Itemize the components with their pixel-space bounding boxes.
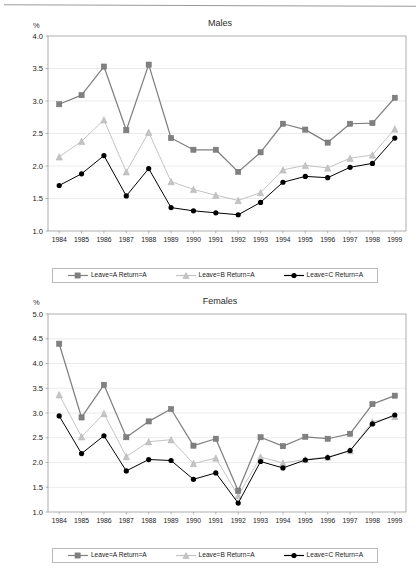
data-point-square: [168, 406, 173, 411]
figure-page: Males % 1.01.52.02.53.03.54.019841985198…: [0, 0, 420, 579]
data-point-square: [146, 419, 151, 424]
y-tick-label: 5.0: [32, 310, 43, 319]
x-tick-label: 1994: [275, 517, 290, 524]
y-axis-tick-labels: 1.01.52.02.53.03.54.04.55.0: [32, 310, 48, 517]
line-chart-svg-males: 1.01.52.02.53.03.54.01984198519861987198…: [0, 18, 420, 268]
data-point-square: [370, 401, 375, 406]
plot-area-females: 1.01.52.02.53.03.54.04.55.01984198519861…: [0, 296, 420, 548]
legend-label: Leave=A Return=A: [91, 552, 147, 559]
legend-item[interactable]: Leave=C Return=A: [283, 271, 363, 280]
legend-label: Leave=B Return=A: [199, 272, 255, 279]
series-circle: [57, 135, 398, 217]
x-tick-label: 1986: [96, 236, 111, 243]
legend-label: Leave=A Return=A: [91, 272, 147, 279]
series-line: [59, 415, 395, 503]
legend-females: Leave=A Return=ALeave=B Return=ALeave=C …: [52, 548, 378, 563]
series-line: [59, 138, 395, 215]
y-tick-label: 3.0: [32, 97, 43, 106]
data-point-square: [392, 95, 397, 100]
data-point-square: [347, 431, 352, 436]
data-point-circle: [57, 183, 62, 188]
x-tick-label: 1987: [119, 517, 134, 524]
data-point-circle: [258, 459, 263, 464]
y-tick-label: 2.5: [32, 129, 43, 138]
y-tick-label: 2.0: [32, 162, 43, 171]
data-point-square: [303, 127, 308, 132]
x-tick-label: 1989: [164, 236, 179, 243]
data-point-triangle: [101, 410, 107, 416]
y-tick-label: 3.5: [32, 64, 43, 73]
series-circle: [57, 412, 398, 505]
data-point-circle: [347, 448, 352, 453]
x-tick-label: 1996: [320, 517, 335, 524]
data-point-square: [101, 64, 106, 69]
data-point-square: [124, 128, 129, 133]
y-tick-label: 2.0: [32, 458, 43, 467]
data-point-circle: [124, 468, 129, 473]
data-point-circle: [392, 412, 397, 417]
x-tick-label: 1989: [164, 517, 179, 524]
data-point-circle: [280, 180, 285, 185]
data-point-triangle: [145, 129, 151, 135]
data-point-circle: [57, 413, 62, 418]
data-point-square: [57, 341, 62, 346]
data-point-square: [191, 443, 196, 448]
x-tick-label: 1999: [387, 236, 402, 243]
data-point-square: [57, 102, 62, 107]
data-point-circle: [392, 135, 397, 140]
y-tick-label: 4.0: [32, 32, 43, 41]
legend-item[interactable]: Leave=A Return=A: [67, 551, 147, 560]
legend-item[interactable]: Leave=C Return=A: [283, 551, 363, 560]
data-point-circle: [236, 500, 241, 505]
data-point-circle: [101, 433, 106, 438]
data-point-circle: [213, 210, 218, 215]
data-point-circle: [79, 451, 84, 456]
data-point-square: [325, 436, 330, 441]
legend-item[interactable]: Leave=B Return=A: [175, 271, 255, 280]
x-tick-label: 1986: [96, 517, 111, 524]
data-point-triangle: [213, 192, 219, 198]
data-point-square: [236, 169, 241, 174]
data-point-square: [213, 436, 218, 441]
x-tick-label: 1997: [343, 517, 358, 524]
square-marker: [67, 551, 89, 560]
data-point-circle: [236, 212, 241, 217]
y-tick-label: 4.0: [32, 359, 43, 368]
data-point-square: [392, 393, 397, 398]
chart-panel-males: Males % 1.01.52.02.53.03.54.019841985198…: [0, 18, 420, 288]
data-point-triangle: [213, 455, 219, 461]
square-marker: [67, 271, 89, 280]
data-point-square: [191, 147, 196, 152]
data-point-circle: [101, 153, 106, 158]
data-point-triangle: [56, 391, 62, 397]
data-point-circle: [191, 477, 196, 482]
gridlines: [48, 69, 406, 199]
data-point-circle: [146, 457, 151, 462]
data-point-square: [146, 62, 151, 67]
data-point-square: [303, 434, 308, 439]
data-point-triangle: [56, 154, 62, 160]
data-point-circle: [168, 205, 173, 210]
data-point-triangle: [168, 178, 174, 184]
x-axis-tick-labels: 1984198519861987198819891990199119921993…: [52, 231, 403, 243]
series-square: [57, 341, 398, 493]
series-line: [59, 344, 395, 491]
legend-label: Leave=C Return=A: [307, 552, 363, 559]
series-square: [57, 62, 398, 174]
x-tick-label: 1995: [298, 517, 313, 524]
data-point-square: [236, 488, 241, 493]
y-tick-label: 1.0: [32, 508, 43, 517]
series-triangle: [56, 391, 398, 498]
triangle-marker: [175, 551, 197, 560]
x-tick-label: 1990: [186, 517, 201, 524]
y-tick-label: 1.5: [32, 194, 43, 203]
legend-item[interactable]: Leave=B Return=A: [175, 551, 255, 560]
data-point-circle: [258, 200, 263, 205]
y-tick-label: 3.5: [32, 384, 43, 393]
x-tick-label: 1994: [275, 236, 290, 243]
data-point-circle: [325, 175, 330, 180]
y-tick-label: 4.5: [32, 334, 43, 343]
y-tick-label: 2.5: [32, 433, 43, 442]
data-point-square: [370, 121, 375, 126]
legend-item[interactable]: Leave=A Return=A: [67, 271, 147, 280]
